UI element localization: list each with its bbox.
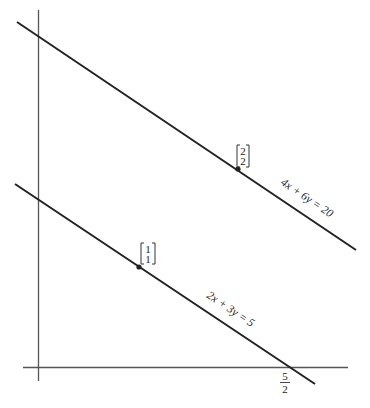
vector-label-2-2: 2 2	[237, 145, 249, 167]
vector-1-1-bottom: 1	[145, 253, 151, 265]
equation-label-lower: 2x + 3y = 5	[204, 289, 257, 330]
vector-2-2-bottom: 2	[240, 155, 246, 167]
diagram-canvas: 2 2 1 1 4x + 6y = 20 2x + 3y = 5 5 2	[0, 0, 370, 408]
line-2x-3y-5	[15, 184, 315, 384]
vector-label-1-1: 1 1	[141, 243, 155, 265]
x-intercept-denominator: 2	[282, 383, 288, 395]
equation-label-upper: 4x + 6y = 20	[278, 176, 335, 221]
x-intercept-label: 5 2	[280, 370, 290, 395]
x-intercept-numerator: 5	[282, 370, 288, 382]
point-1-1	[136, 264, 141, 269]
line-4x-6y-20	[17, 22, 356, 250]
